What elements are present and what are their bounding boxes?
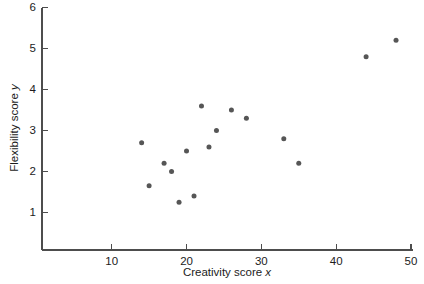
data-point: [206, 144, 211, 149]
y-tick-label: 1: [30, 206, 36, 218]
scatter-plot-figure: 123456 1020304050 Creativity score x Fle…: [0, 0, 424, 284]
x-axis-ticks: 1020304050: [105, 244, 417, 267]
data-point: [184, 149, 189, 154]
data-point: [394, 38, 399, 43]
y-tick-label: 4: [30, 83, 37, 95]
data-point: [139, 140, 144, 145]
y-tick-label: 5: [30, 42, 36, 54]
data-point: [147, 183, 152, 188]
data-point: [199, 103, 204, 108]
data-point: [296, 161, 301, 166]
data-point: [162, 161, 167, 166]
data-point: [281, 136, 286, 141]
y-axis-title: Flexibility score y: [8, 83, 20, 172]
axes-group: [42, 8, 413, 251]
data-point: [177, 200, 182, 205]
axis-titles: Creativity score x Flexibility score y: [8, 83, 272, 278]
data-point: [244, 116, 249, 121]
data-point: [229, 108, 234, 113]
y-tick-label: 3: [30, 124, 36, 136]
data-point: [214, 128, 219, 133]
x-tick-label: 10: [105, 255, 118, 267]
data-point: [169, 169, 174, 174]
y-tick-label: 6: [30, 1, 36, 13]
x-tick-label: 50: [405, 255, 418, 267]
y-axis-ticks: 123456: [30, 1, 48, 218]
y-tick-label: 2: [30, 165, 36, 177]
x-axis-title: Creativity score x: [183, 266, 272, 278]
data-points-layer: [139, 38, 398, 205]
data-point: [364, 54, 369, 59]
data-point: [192, 194, 197, 199]
plot-canvas: 123456 1020304050 Creativity score x Fle…: [0, 0, 424, 284]
x-tick-label: 40: [330, 255, 343, 267]
